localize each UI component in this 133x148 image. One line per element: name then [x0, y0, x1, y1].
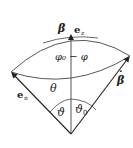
ez-subscript: z [81, 29, 84, 36]
beta-label: β [57, 22, 66, 35]
en-subscript: n [24, 94, 28, 101]
vartheta0-subscript: 0 [83, 109, 87, 117]
spherical-triangle-diagram: β e z φ₀ − φ θ e n ϑ ϑ 0 β · [0, 0, 133, 148]
theta-label: θ [50, 82, 57, 95]
en-arrow [12, 73, 71, 134]
vartheta0-label: ϑ [75, 103, 83, 116]
ez-label: e [74, 24, 80, 35]
vartheta-label: ϑ [57, 106, 65, 119]
beta-dot-mark: · [119, 65, 122, 76]
en-label: e [17, 89, 23, 100]
phi-diff-label: φ₀ − φ [55, 51, 88, 62]
